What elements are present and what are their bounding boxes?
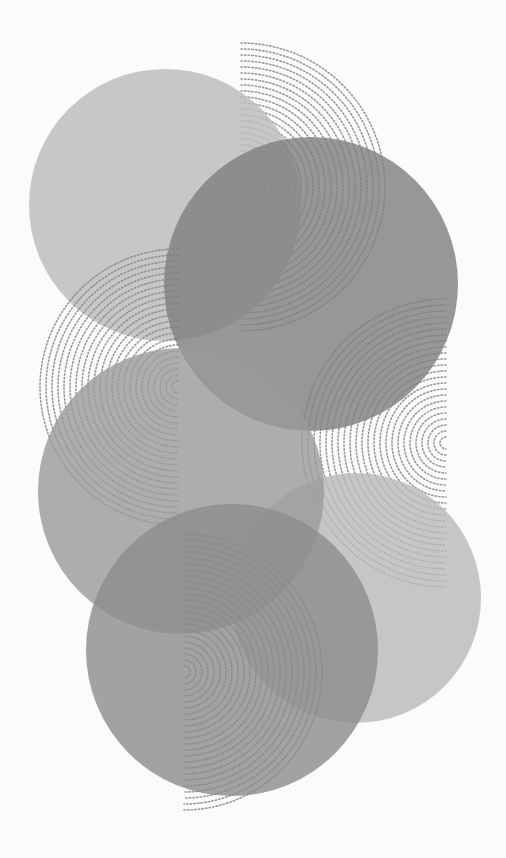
abstract-circles-artwork [0,0,506,858]
bottom-circle [86,504,378,796]
